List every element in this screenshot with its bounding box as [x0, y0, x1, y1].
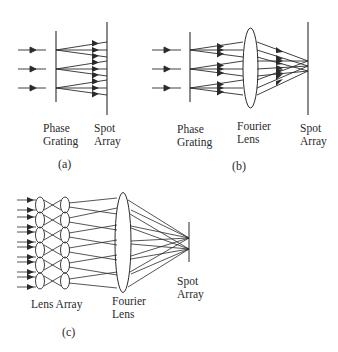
- panel-b-fourier-lens: [243, 28, 258, 108]
- panel-c-spot-label-line2: Array: [177, 288, 204, 301]
- panel-b-spot-label-line1: Spot: [300, 122, 321, 135]
- panel-c-lens-label-line1: Fourier: [112, 295, 146, 308]
- panel-c-input-beams: [17, 200, 36, 287]
- panel-c-focused-rays: [128, 200, 189, 287]
- panel-c-inter-lens-rays: [44, 200, 61, 286]
- panel-b-diffracted-rays: [190, 42, 243, 95]
- panel-c-diagram: [17, 193, 189, 293]
- panel-c-lens-label-line2: Lens: [112, 308, 134, 321]
- panel-a-caption: (a): [58, 157, 71, 172]
- panel-c-lens-array-label: Lens Array: [31, 298, 82, 311]
- panel-c-fourier-lens: [115, 193, 131, 293]
- panel-a-input-beams: [18, 47, 46, 91]
- panel-c-lens-array-2: [61, 197, 70, 289]
- panel-a-diffracted-rays: [56, 42, 107, 95]
- panel-a-diagram: [18, 22, 107, 115]
- panel-b-lens-label-line2: Lens: [237, 133, 259, 146]
- panel-b-grating-label-line2: Grating: [177, 136, 212, 149]
- panel-c-caption: (c): [62, 325, 75, 340]
- panel-a-spot-label-line2: Array: [94, 135, 121, 148]
- panel-b-grating-label-line1: Phase: [177, 123, 204, 136]
- panel-a-grating-label-line2: Grating: [43, 135, 78, 148]
- panel-b-caption: (b): [232, 159, 246, 174]
- panel-c-expanding-rays: [69, 198, 117, 288]
- optics-figure: Phase Grating Spot Array (a) Phase Grati…: [0, 0, 338, 352]
- panel-c-lens-array-1: [36, 197, 45, 289]
- panel-b-focused-rays: [257, 42, 308, 95]
- panel-a-arrowheads: [92, 40, 99, 97]
- panel-b-lens-label-line1: Fourier: [237, 120, 271, 133]
- panel-b-input-beams: [152, 47, 181, 91]
- panel-c-spot-label-line1: Spot: [177, 275, 198, 288]
- panel-b-spot-label-line2: Array: [300, 135, 327, 148]
- panel-a-spot-label-line1: Spot: [94, 122, 115, 135]
- panel-b-diagram: [152, 22, 308, 115]
- panel-c-input-arrowheads: [27, 197, 34, 290]
- panel-a-grating-label-line1: Phase: [43, 122, 70, 135]
